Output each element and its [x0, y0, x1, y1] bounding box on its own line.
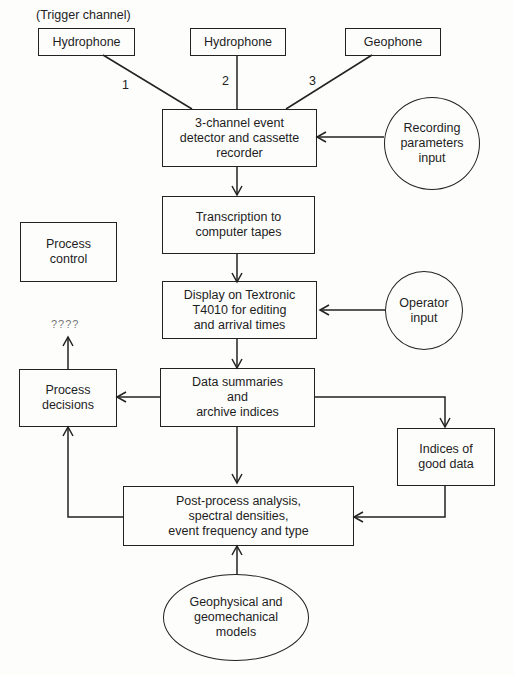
unknown-outcome-label: ????	[51, 318, 79, 330]
transcription-node: Transcription to computer tapes	[162, 196, 315, 254]
channel-1-label: 1	[122, 78, 129, 92]
operator-input-node: Operator input	[385, 271, 463, 350]
post-process-node: Post-process analysis, spectral densitie…	[123, 486, 354, 546]
models-node: Geophysical and geomechanical models	[163, 574, 309, 661]
flowchart-canvas: (Trigger channel) 1 2 3 ???? Hydrophone …	[0, 0, 514, 675]
recording-parameters-node: Recording parameters input	[384, 97, 480, 190]
hydrophone-node: Hydrophone	[190, 28, 286, 56]
channel-2-label: 2	[222, 74, 229, 88]
geophone-node: Geophone	[345, 28, 441, 56]
trigger-channel-label: (Trigger channel)	[36, 8, 131, 22]
data-summaries-node: Data summaries and archive indices	[160, 368, 315, 427]
indices-good-data-node: Indices of good data	[397, 428, 495, 486]
channel-3-label: 3	[309, 74, 316, 88]
display-node: Display on Textronic T4010 for editing a…	[162, 281, 317, 339]
hydrophone-trigger-node: Hydrophone	[38, 28, 135, 56]
process-decisions-node: Process decisions	[19, 369, 117, 427]
event-detector-node: 3-channel event detector and cassette re…	[162, 109, 317, 167]
process-control-node: Process control	[20, 222, 117, 282]
